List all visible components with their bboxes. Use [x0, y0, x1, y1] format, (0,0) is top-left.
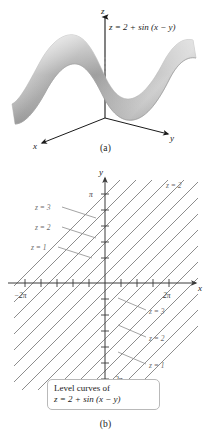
- level-label-left-bottom: z = 1: [30, 243, 46, 252]
- level-label-lower-right-top: z = 3: [148, 307, 165, 316]
- x-axis-line: [42, 118, 105, 143]
- level-label-lower-right-bottom: z = 1: [148, 361, 164, 370]
- level-label-left-mid: z = 2: [34, 223, 51, 232]
- leader-line: [118, 352, 146, 364]
- z-axis-label: z: [100, 6, 105, 16]
- level-label-upper-right: z = 2: [165, 181, 182, 190]
- leader-line-group-right: [118, 298, 146, 364]
- x-tick-label-2pi: 2π: [163, 291, 171, 300]
- panel-a-surface-plot: z x y z = 2 + sin (x − y): [0, 0, 211, 158]
- legend-title: Level curves of: [54, 383, 154, 394]
- y-tick-label-pi: π: [89, 190, 93, 199]
- leader-line-group-left: [58, 207, 96, 258]
- y-axis-line: [105, 118, 168, 134]
- y-axis-label: y: [169, 133, 174, 143]
- x-axis-label: x: [197, 283, 202, 293]
- x-tick-label-neg-2pi: −2π: [14, 291, 27, 300]
- level-label-lower-right-mid: z = 2: [148, 334, 165, 343]
- level-label-left-top: z = 3: [34, 203, 51, 212]
- y-axis-label: y: [98, 167, 103, 177]
- level-curves-legend-box: Level curves of z = 2 + sin (x − y): [47, 379, 160, 410]
- caption-a: (a): [0, 143, 211, 153]
- caption-b: (b): [0, 419, 211, 429]
- surface-svg: z x y: [0, 0, 211, 158]
- surface-equation-label: z = 2 + sin (x − y): [109, 22, 175, 32]
- surface-shading-overlay: [12, 35, 196, 124]
- legend-equation: z = 2 + sin (x − y): [54, 394, 154, 405]
- leader-line: [118, 298, 146, 310]
- leader-line: [118, 325, 146, 337]
- figure-container: z x y z = 2 + sin (x − y) (a): [0, 0, 211, 435]
